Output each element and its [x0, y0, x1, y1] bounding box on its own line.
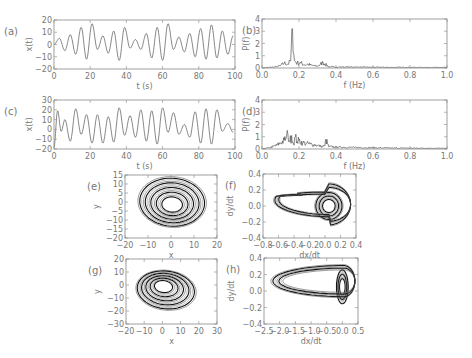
- y-tick-label: 20: [42, 106, 52, 115]
- y-tick-label: 30: [42, 96, 52, 105]
- plot-area: [54, 24, 233, 61]
- x-tick-label: −0.2: [300, 241, 319, 250]
- plot-area: [262, 130, 447, 149]
- y-tick-label: 1: [255, 133, 260, 142]
- axes-frame: [54, 100, 235, 149]
- y-tick-label: 2: [255, 40, 260, 49]
- y-tick-label: −0.2: [243, 304, 262, 313]
- attractor-orbit: [323, 200, 336, 213]
- y-tick-label: −10: [106, 216, 123, 225]
- attractor-orbit: [322, 198, 337, 213]
- y-tick-label: 10: [42, 116, 52, 125]
- y-axis-label: P(f): [242, 118, 251, 132]
- y-tick-label: −5: [111, 207, 123, 216]
- y-tick-label: −20: [107, 307, 124, 316]
- attractor-orbit: [160, 195, 184, 213]
- y-tick-label: −20: [35, 145, 52, 154]
- y-axis-label: dy/dt: [227, 281, 236, 302]
- x-tick-label: 0.4: [350, 241, 363, 250]
- x-tick-label: 10: [189, 241, 199, 250]
- y-axis-label: y: [93, 289, 102, 294]
- y-tick-label: −10: [107, 294, 124, 303]
- y-tick-label: 0: [47, 125, 52, 134]
- panel-label: (e): [87, 181, 101, 192]
- x-tick-label: 0.2: [293, 71, 306, 80]
- y-tick-label: 10: [42, 28, 52, 37]
- panel-label: (f): [225, 180, 236, 191]
- plot-area: [271, 265, 355, 304]
- y-tick-label: 10: [114, 268, 124, 277]
- x-axis-label: f (Hz): [344, 162, 366, 171]
- figure-canvas: 020406080100−20−1001020t (s)x(t)(a) 0.00…: [0, 0, 472, 358]
- panel-label: (h): [226, 264, 240, 275]
- panel-c: 020406080100−20−100102030t (s)x(t)(c): [4, 96, 243, 171]
- y-tick-label: 10: [113, 180, 123, 189]
- plot-area: [262, 29, 447, 68]
- y-tick-label: 0.0: [248, 202, 261, 211]
- panel-label: (a): [4, 26, 18, 37]
- y-tick-label: 0: [119, 281, 124, 290]
- x-tick-label: 0: [51, 152, 56, 161]
- panel-label: (d): [242, 106, 256, 117]
- x-tick-label: 0.4: [330, 152, 343, 161]
- y-tick-label: 15: [113, 171, 123, 180]
- x-tick-label: 0.5: [352, 327, 365, 336]
- x-axis-label: f (Hz): [344, 81, 366, 90]
- y-tick-label: −20: [35, 65, 52, 74]
- plot-area: [138, 177, 207, 228]
- y-tick-label: 0.4: [248, 170, 261, 179]
- x-tick-label: 10: [176, 327, 186, 336]
- plot-area: [136, 270, 196, 310]
- x-tick-label: 0.4: [330, 71, 343, 80]
- y-tick-label: 5: [118, 189, 123, 198]
- x-tick-label: −0.5: [317, 327, 336, 336]
- y-tick-label: −20: [106, 234, 123, 243]
- y-axis-label: dy/dt: [226, 196, 235, 217]
- x-tick-label: 80: [194, 152, 204, 161]
- data-line: [262, 29, 447, 68]
- panel-g: −20−100102030−30−20−1001020xy(g): [88, 255, 222, 346]
- data-line: [54, 108, 233, 147]
- x-tick-label: 0.6: [367, 71, 380, 80]
- y-tick-label: −0.2: [242, 218, 261, 227]
- y-tick-label: 0: [118, 198, 123, 207]
- x-tick-label: 0.8: [404, 152, 417, 161]
- y-axis-label: y: [92, 204, 101, 209]
- x-tick-label: 60: [158, 152, 168, 161]
- attractor-orbit: [154, 281, 172, 293]
- panel-f: −0.8−0.6−0.4−0.20.00.20.4−0.4−0.20.00.20…: [225, 170, 362, 260]
- x-tick-label: 20: [194, 327, 204, 336]
- panel-label: (c): [4, 106, 17, 117]
- y-tick-label: −10: [35, 53, 52, 62]
- x-tick-label: 60: [158, 72, 168, 81]
- x-tick-label: 1.0: [441, 71, 454, 80]
- x-tick-label: 0.0: [319, 241, 332, 250]
- y-tick-label: 4: [255, 15, 260, 24]
- x-tick-label: 20: [85, 152, 95, 161]
- y-tick-label: 0: [255, 145, 260, 154]
- y-tick-label: 4: [255, 96, 260, 105]
- x-axis-label: dx/dt: [299, 251, 320, 260]
- x-tick-label: 0.0: [336, 327, 349, 336]
- axes-frame: [126, 259, 217, 324]
- x-axis-label: t (s): [136, 162, 152, 171]
- x-tick-label: 0.6: [367, 152, 380, 161]
- data-line: [54, 24, 233, 61]
- panel-d: 0.00.20.40.60.81.001234f (Hz)P(f)(d): [242, 96, 453, 171]
- x-axis-label: dx/dt: [301, 337, 322, 346]
- x-tick-label: 30: [212, 327, 222, 336]
- y-tick-label: 0.4: [249, 254, 262, 263]
- x-tick-label: 0.2: [334, 241, 347, 250]
- y-tick-label: −10: [35, 135, 52, 144]
- panel-h: −2.5−2.0−1.5−1.0−0.50.00.5−0.4−0.20.00.2…: [226, 254, 364, 346]
- y-axis-label: P(f): [242, 37, 251, 51]
- x-tick-label: 100: [227, 152, 242, 161]
- y-tick-label: 20: [42, 16, 52, 25]
- x-tick-label: −10: [140, 241, 157, 250]
- x-tick-label: 40: [121, 72, 131, 81]
- plot-area: [54, 108, 233, 147]
- y-tick-label: 0.2: [248, 186, 261, 195]
- x-axis-label: x: [169, 337, 174, 346]
- x-tick-label: 0.2: [293, 152, 306, 161]
- x-tick-label: 0: [160, 327, 165, 336]
